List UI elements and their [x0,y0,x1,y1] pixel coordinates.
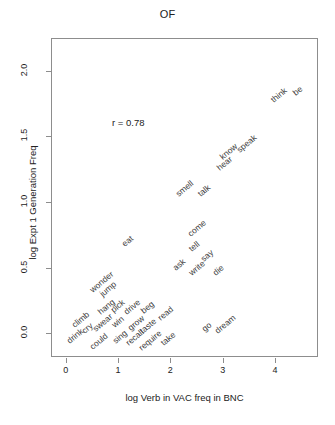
y-axis-tick [46,136,51,137]
data-point-label: read [156,304,174,321]
x-axis-tick [275,358,276,363]
data-point-label: dream [214,313,238,335]
data-point-label: ask [171,257,187,272]
data-point-label: tell [187,240,201,254]
x-axis-tick [223,358,224,363]
plot-area: drinkclimbcrycouldswearhangwonderjumppic… [51,38,318,357]
data-point-label: come [186,218,207,238]
x-axis-tick [66,358,67,363]
data-point-label: die [212,263,226,277]
x-axis-tick-label: 3 [211,365,235,375]
y-axis-tick-label: 2.0 [19,50,29,90]
data-point-label: think [269,86,288,104]
data-point-label: beg [139,300,155,316]
data-point-label: talk [196,183,212,198]
scatter-plot-figure: OF drinkclimbcrycouldswearhangwonderjump… [0,0,335,425]
data-point-label: could [89,331,110,351]
data-point-label: speak [236,133,259,154]
data-point-label: take [159,330,177,347]
x-axis-tick-label: 2 [158,365,182,375]
x-axis-tick-label: 0 [54,365,78,375]
data-point-label: be [291,85,304,98]
y-axis-tick [46,202,51,203]
x-axis-label: log Verb in VAC freq in BNC [51,392,318,403]
y-axis-tick-label: 0.0 [19,312,29,352]
x-axis-tick-label: 4 [263,365,287,375]
data-point-label: smell [174,179,195,198]
x-axis-tick-label: 1 [106,365,130,375]
y-axis-tick [46,71,51,72]
y-axis-tick [46,333,51,334]
y-axis-tick [46,268,51,269]
correlation-annotation: r = 0.78 [112,117,144,128]
data-point-label: eat [120,234,135,248]
data-point-label: go [200,321,213,334]
y-axis-label: log Expt 1 Generation Freq [27,113,38,293]
x-axis-tick [118,358,119,363]
x-axis-tick [170,358,171,363]
chart-title: OF [0,8,335,20]
